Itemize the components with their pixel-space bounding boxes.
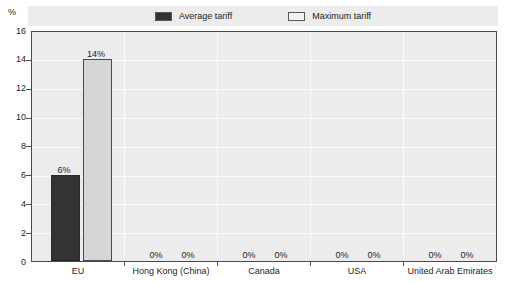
tariff-bar-chart: Average tariff Maximum tariff % 16 14 12… (0, 0, 508, 282)
bar-eu-maximum[interactable] (83, 59, 112, 261)
value-label-usa-maximum: 0% (367, 251, 380, 260)
x-axis-label-usa: USA (348, 267, 367, 276)
category-divider-4 (403, 32, 404, 261)
legend-item-maximum-tariff: Maximum tariff (288, 12, 371, 21)
x-axis-label-uae: United Arab Emirates (407, 267, 492, 276)
legend-item-average-tariff: Average tariff (155, 12, 232, 21)
value-label-uae-maximum: 0% (460, 251, 473, 260)
x-axis-label-eu: EU (72, 267, 85, 276)
value-label-eu-average: 6% (57, 166, 70, 175)
x-axis-tick-2 (217, 262, 218, 266)
legend-swatch-maximum-icon (288, 12, 305, 21)
x-axis-label-hongkong: Hong Kong (China) (132, 267, 209, 276)
y-axis-label-16: 16 (2, 27, 26, 36)
x-axis-tick-1 (124, 262, 125, 266)
value-label-uae-average: 0% (428, 251, 441, 260)
y-axis-label-6: 6 (2, 171, 26, 180)
value-label-canada-average: 0% (242, 251, 255, 260)
category-divider-1 (124, 32, 125, 261)
legend-label-average: Average tariff (179, 12, 232, 21)
value-label-canada-maximum: 0% (274, 251, 287, 260)
legend-label-maximum: Maximum tariff (312, 12, 371, 21)
chart-legend: Average tariff Maximum tariff (28, 6, 498, 26)
y-axis-label-10: 10 (2, 113, 26, 122)
y-axis-label-2: 2 (2, 229, 26, 238)
y-axis-label-8: 8 (2, 142, 26, 151)
value-label-usa-average: 0% (335, 251, 348, 260)
bar-eu-average[interactable] (51, 175, 80, 261)
x-axis-tick-4 (403, 262, 404, 266)
y-axis-label-12: 12 (2, 84, 26, 93)
value-label-hongkong-maximum: 0% (181, 251, 194, 260)
y-axis-label-14: 14 (2, 55, 26, 64)
category-divider-2 (217, 32, 218, 261)
plot-area (31, 31, 497, 262)
x-axis-tick-3 (310, 262, 311, 266)
category-divider-3 (310, 32, 311, 261)
y-axis-label-4: 4 (2, 200, 26, 209)
y-axis-unit-label: % (8, 8, 16, 17)
value-label-hongkong-average: 0% (149, 251, 162, 260)
x-axis-label-canada: Canada (248, 267, 280, 276)
value-label-eu-maximum: 14% (87, 50, 105, 59)
y-axis-label-0: 0 (2, 258, 26, 267)
legend-swatch-average-icon (155, 12, 172, 21)
